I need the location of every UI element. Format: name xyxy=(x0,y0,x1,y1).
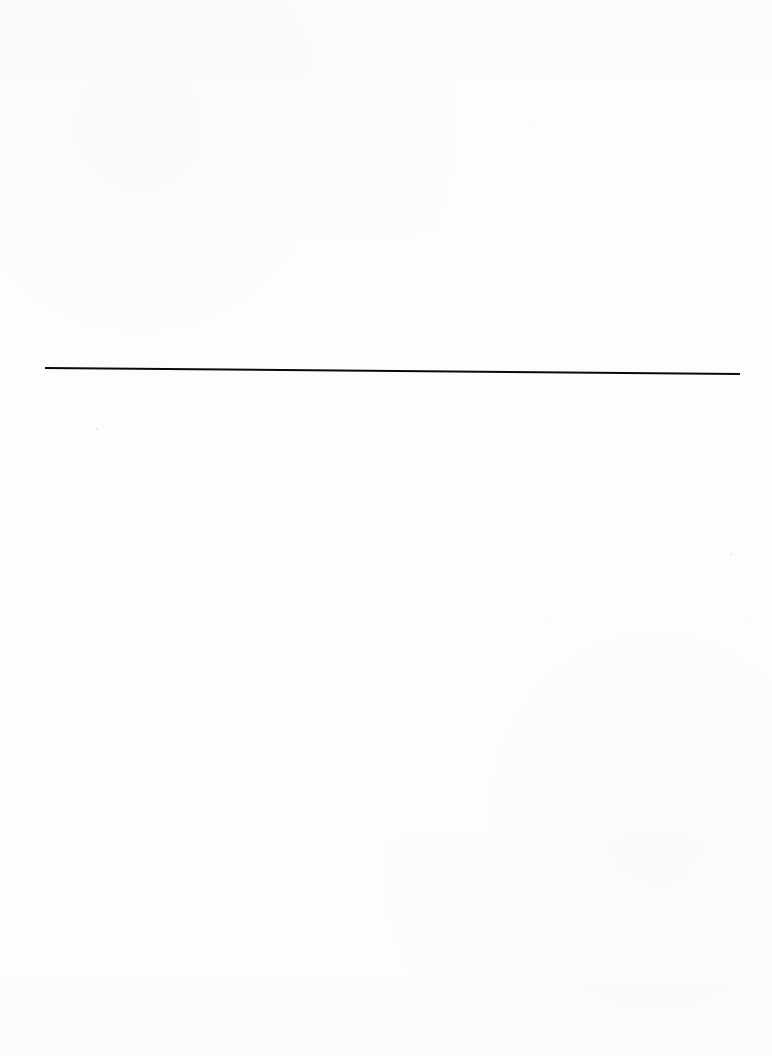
scan-speck xyxy=(96,428,98,430)
scan-speck xyxy=(20,248,21,249)
scan-speck xyxy=(544,616,545,617)
scan-speck xyxy=(389,110,390,111)
horizontal-rule-layer xyxy=(0,0,772,1056)
scan-speck xyxy=(749,618,750,619)
scan-speck xyxy=(657,883,658,884)
scan-speck xyxy=(313,136,314,137)
scan-speck xyxy=(604,722,605,723)
scan-speck xyxy=(533,120,534,121)
scan-speck xyxy=(463,269,464,270)
scan-speck xyxy=(270,585,271,586)
scan-speck xyxy=(276,524,277,525)
horizontal-rule xyxy=(45,368,740,374)
scan-speck xyxy=(730,553,732,555)
scan-speck xyxy=(176,706,177,707)
scanned-page xyxy=(0,0,772,1056)
scan-speckle-layer xyxy=(0,0,772,1056)
scan-speck xyxy=(697,870,698,871)
